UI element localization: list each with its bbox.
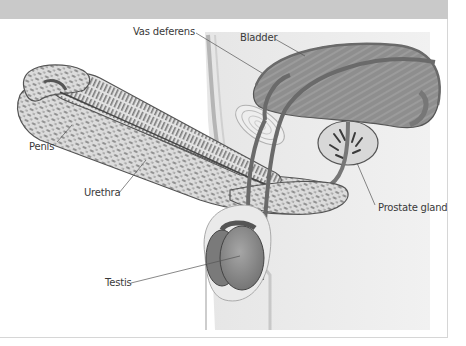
anatomy-figure: Vas deferens Bladder Penis Urethra Prost…	[0, 19, 448, 338]
label-bladder: Bladder	[240, 32, 277, 43]
male-reproductive-anatomy-illustration	[0, 19, 447, 337]
label-penis: Penis	[29, 141, 54, 152]
label-urethra: Urethra	[84, 187, 120, 198]
label-testis: Testis	[105, 277, 131, 288]
label-prostate-gland: Prostate gland	[378, 202, 448, 213]
label-vas-deferens: Vas deferens	[133, 26, 195, 37]
header-band	[0, 0, 448, 19]
